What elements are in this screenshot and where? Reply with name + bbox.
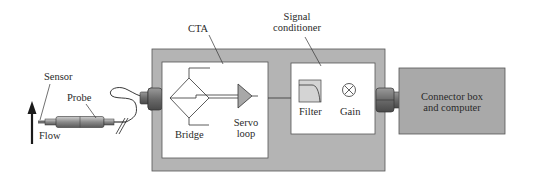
- gain-icon: [343, 84, 356, 97]
- signal-label-line1: Signal: [262, 11, 332, 22]
- connector-label-line1: Connector box: [399, 91, 505, 102]
- gain-label: Gain: [340, 106, 360, 117]
- filter-label: Filter: [299, 106, 322, 117]
- cta-box: [162, 62, 268, 158]
- signal-conditioner-label: Signal conditioner: [262, 11, 332, 33]
- signal-label-line2: conditioner: [262, 22, 332, 33]
- servo-label-line1: Servo: [229, 117, 263, 128]
- filter-icon: [299, 80, 321, 102]
- probe-icon: [38, 117, 126, 128]
- sensor-leader: [40, 84, 50, 120]
- flow-arrow-icon: [28, 101, 37, 144]
- sensor-label: Sensor: [44, 71, 73, 82]
- housing-connector: [148, 88, 162, 110]
- cta-label: CTA: [188, 23, 208, 34]
- connector-label-line2: and computer: [399, 102, 505, 113]
- connector-box-label: Connector box and computer: [399, 91, 505, 113]
- probe-leader: [86, 104, 96, 118]
- flow-label: Flow: [39, 130, 61, 141]
- servo-label-line2: loop: [229, 128, 263, 139]
- servo-loop-label: Servo loop: [229, 117, 263, 139]
- bridge-label: Bridge: [175, 129, 204, 140]
- probe-label: Probe: [67, 92, 92, 103]
